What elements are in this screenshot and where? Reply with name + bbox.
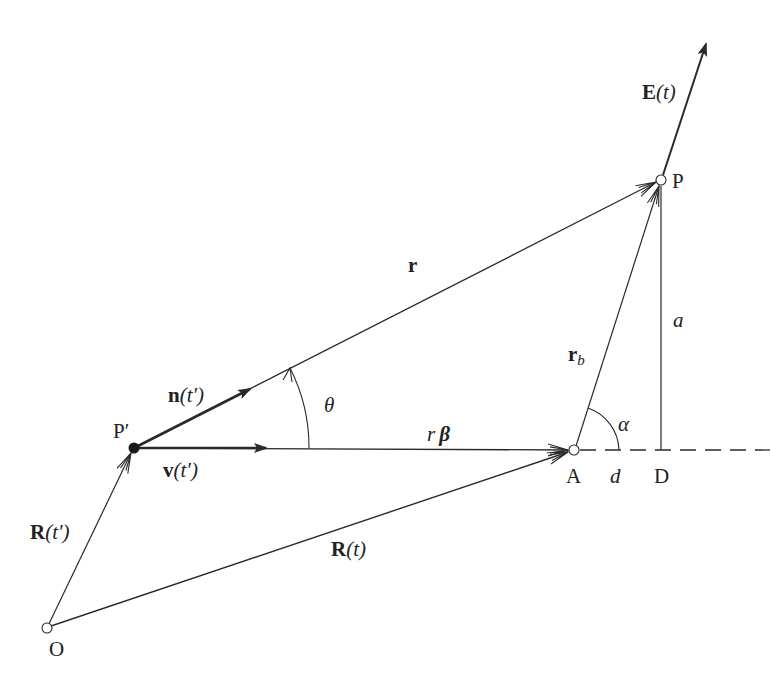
label-R-t: R(t) xyxy=(331,537,366,561)
label-r-b: rb xyxy=(568,342,585,368)
point-A-marker xyxy=(569,445,579,455)
label-O: O xyxy=(49,637,64,661)
angle-theta-arc xyxy=(290,368,309,448)
vector-r-b xyxy=(576,186,659,446)
point-O-marker xyxy=(42,623,52,633)
label-n-t-prime: n(t′) xyxy=(168,383,204,407)
label-alpha: α xyxy=(618,412,630,436)
vector-E-t xyxy=(663,44,706,175)
label-P: P xyxy=(672,169,684,193)
vector-R-t xyxy=(51,452,568,626)
label-r: r xyxy=(408,253,417,277)
point-P-prime-marker xyxy=(129,443,140,454)
label-d: d xyxy=(610,464,621,488)
label-theta: θ xyxy=(324,393,334,417)
label-P-prime: P′ xyxy=(113,419,129,443)
vector-diagram: O P′ A P D R(t′) R(t) v(t′) n(t′) r rβ r… xyxy=(0,0,772,685)
label-a: a xyxy=(673,308,684,332)
label-E-t: E(t) xyxy=(642,80,676,104)
point-P-marker xyxy=(656,175,666,185)
label-A: A xyxy=(566,464,582,488)
label-r-beta: rβ xyxy=(427,422,450,446)
angle-alpha-arc xyxy=(588,408,619,450)
label-v-t-prime: v(t′) xyxy=(163,458,198,482)
label-D: D xyxy=(654,464,669,488)
label-R-t-prime: R(t′) xyxy=(30,520,70,544)
